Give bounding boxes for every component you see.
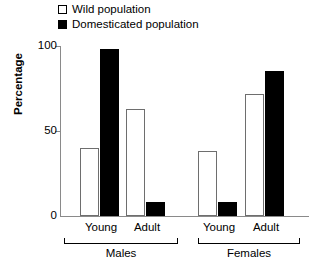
bar-chart: Wild population Domesticated population … [0,0,319,270]
group-bracket-females [198,238,300,244]
x-category-label-females-adult: Adult [253,221,279,233]
wild-population-swatch-icon [58,5,67,14]
y-axis-title: Percentage [12,53,24,115]
legend-item-wild-population: Wild population [58,2,199,16]
legend-label-domesticated-population: Domesticated population [72,18,199,30]
bar-females-young-wild [198,151,217,216]
x-category-label-males-young: Young [85,221,117,233]
bar-males-young-domesticated [100,49,119,216]
y-tick-label-50: 50 [44,124,57,136]
bar-males-adult-wild [126,109,145,216]
legend-label-wild-population: Wild population [72,3,151,15]
chart-legend: Wild population Domesticated population [58,2,199,32]
bar-males-young-wild [80,148,99,216]
y-tick-label-0: 0 [51,209,57,221]
group-bracket-males [64,238,178,244]
x-category-label-males-adult: Adult [134,221,160,233]
bar-females-adult-domesticated [265,71,284,216]
y-tick-label-100: 100 [38,39,57,51]
legend-item-domesticated-population: Domesticated population [58,17,199,31]
group-label-females: Females [227,247,271,259]
bar-females-adult-wild [245,94,264,216]
plot-area: 100 50 0 [61,46,309,216]
x-category-label-females-young: Young [203,221,235,233]
domesticated-population-swatch-icon [58,20,67,29]
bar-males-adult-domesticated [146,202,165,216]
x-axis-line [60,216,309,217]
bar-females-young-domesticated [218,202,237,216]
group-label-males: Males [106,247,137,259]
